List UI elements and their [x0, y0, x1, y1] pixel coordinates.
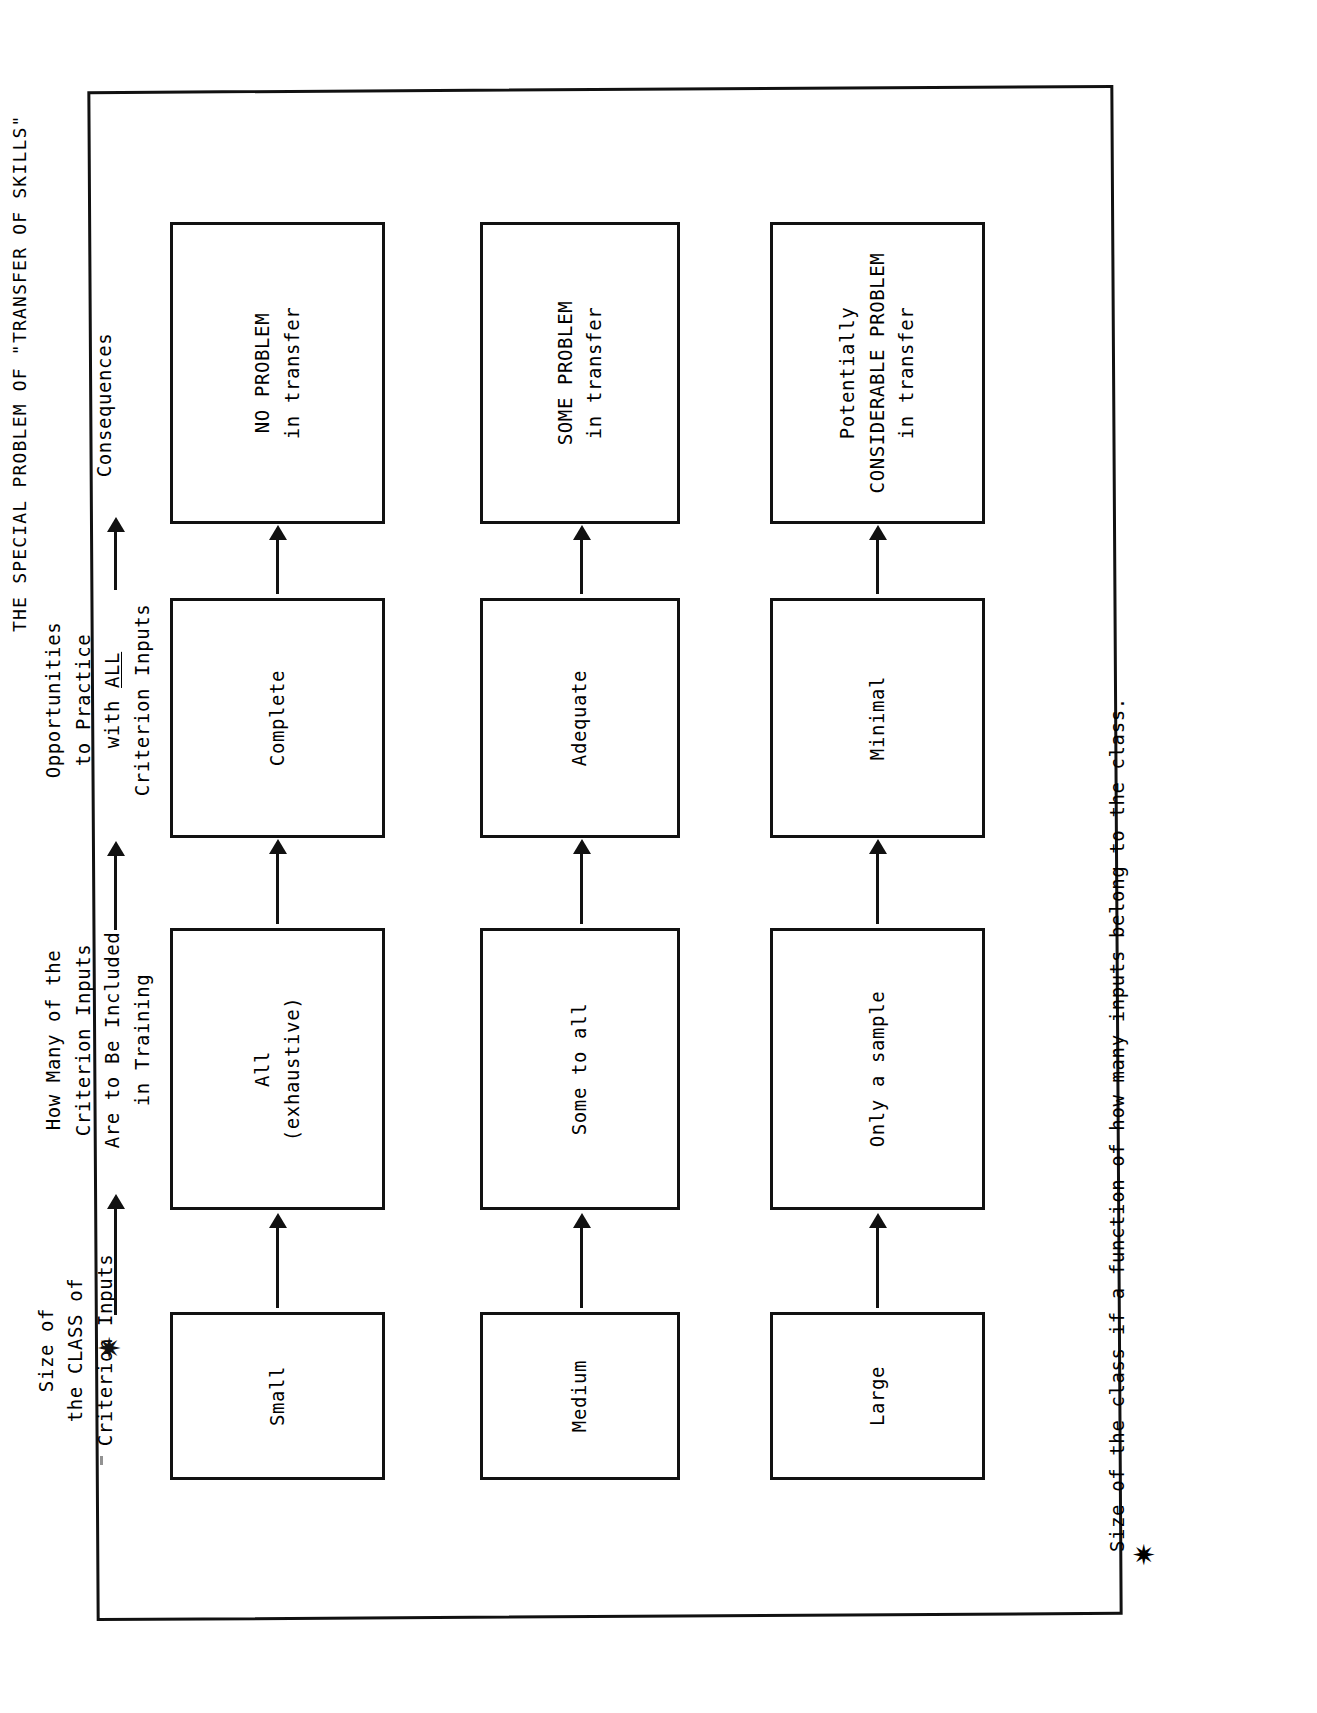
arrow-all-to-complete	[276, 842, 279, 924]
node-how-many-all[interactable]: All (exhaustive)	[170, 928, 385, 1210]
node-opportunities-complete[interactable]: Complete	[170, 598, 385, 838]
node-how-many-only-a-sample[interactable]: Only a sample	[770, 928, 985, 1210]
header-arrow-howmany-to-opportunities	[114, 844, 117, 930]
opportunities-emphasis-text: ALL	[101, 652, 123, 688]
node-consequence-no-problem[interactable]: NO PROBLEM in transfer	[170, 222, 385, 524]
class-size-star-icon: ✷	[86, 1336, 126, 1360]
node-class-size-large[interactable]: Large	[770, 1312, 985, 1480]
arrow-some-to-all-to-adequate	[580, 842, 583, 924]
node-class-size-medium[interactable]: Medium	[480, 1312, 680, 1480]
column-label-consequences: Consequences	[90, 275, 119, 535]
arrow-large-to-only-a-sample	[876, 1216, 879, 1308]
arrow-minimal-to-considerable-problem	[876, 528, 879, 594]
opportunities-pre-text: Opportunities to Practice with	[42, 622, 123, 779]
node-opportunities-minimal[interactable]: Minimal	[770, 598, 985, 838]
footnote-text: Size of the class if a function of how m…	[1106, 697, 1128, 1552]
header-arrow-class-to-howmany	[114, 1197, 117, 1315]
page-title: THE SPECIAL PROBLEM OF "TRANSFER OF SKIL…	[0, 20, 40, 640]
diagram-canvas: Size of the CLASS of Criterion Inputs Ho…	[150, 160, 1030, 1490]
column-label-how-many-text: How Many of the Criterion Inputs Are to …	[42, 932, 152, 1149]
node-class-size-small[interactable]: Small	[170, 1312, 385, 1480]
header-arrow-opportunities-to-consequences	[114, 520, 117, 590]
arrow-medium-to-some-to-all	[580, 1216, 583, 1308]
column-label-opportunities: Opportunities to Practice with ALL Crite…	[10, 550, 157, 850]
node-how-many-some-to-all[interactable]: Some to all	[480, 928, 680, 1210]
node-opportunities-adequate[interactable]: Adequate	[480, 598, 680, 838]
arrow-only-a-sample-to-minimal	[876, 842, 879, 924]
arrow-small-to-all	[276, 1216, 279, 1308]
node-consequence-some-problem[interactable]: SOME PROBLEM in transfer	[480, 222, 680, 524]
arrow-complete-to-no-problem	[276, 528, 279, 594]
arrow-adequate-to-some-problem	[580, 528, 583, 594]
node-consequence-considerable-problem[interactable]: Potentially CONSIDERABLE PROBLEM in tran…	[770, 222, 985, 524]
opportunities-post-text: Criterion Inputs	[131, 604, 153, 797]
column-label-how-many: How Many of the Criterion Inputs Are to …	[10, 890, 157, 1190]
